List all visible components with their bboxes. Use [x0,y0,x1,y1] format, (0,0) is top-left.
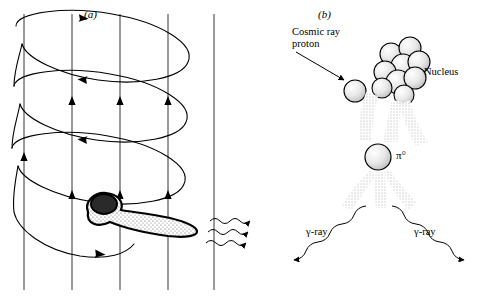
nucleus-label: Nucleus [424,66,458,78]
radiation-wavy-rays [206,219,250,246]
pion-sphere [365,144,391,170]
panel-b-label: (b) [318,8,331,20]
pion-label: π° [396,149,406,161]
particle-emission-blob [87,193,197,237]
pion-decay-spray [342,170,416,210]
panel-a-group [12,10,250,290]
panel-a-label: (a) [84,8,97,20]
gamma-ray-right-label: γ-ray [414,226,436,238]
proton-sphere [344,80,366,102]
gamma-ray-left-wave [294,206,366,260]
cosmic-ray-arrow [296,52,344,80]
nucleus-cluster [372,37,430,105]
cosmic-ray-proton-label: Cosmic ray proton [292,26,340,50]
interaction-spray [359,92,428,146]
figure-canvas [0,0,481,304]
gamma-ray-left-label: γ-ray [306,226,328,238]
